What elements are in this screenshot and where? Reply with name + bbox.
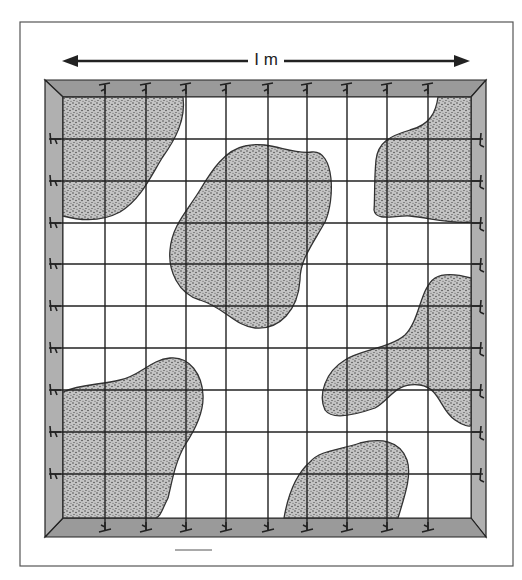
arrow-head-left-icon — [62, 55, 78, 67]
frame-top — [45, 80, 486, 97]
quadrat-svg — [0, 0, 522, 580]
frame-bottom — [45, 518, 486, 537]
arrow-head-right-icon — [454, 55, 470, 67]
frame-left — [45, 80, 63, 537]
quadrat-diagram: I m — [0, 0, 522, 580]
frame-right — [471, 80, 486, 537]
scale-label: I m — [248, 50, 284, 70]
